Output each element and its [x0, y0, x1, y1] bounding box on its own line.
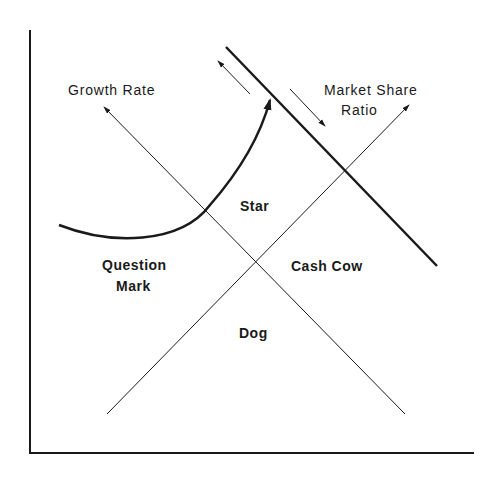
growth-rate-label: Growth Rate	[68, 82, 155, 98]
cash-cow-label: Cash Cow	[291, 258, 363, 274]
dog-label: Dog	[239, 325, 268, 341]
question-mark-label-line2: Mark	[116, 278, 151, 294]
boundary-line	[226, 47, 437, 266]
bcg-diagram: Growth Rate Market Share Ratio Star Ques…	[0, 0, 485, 478]
question-mark-label-line1: Question	[102, 257, 167, 273]
market-share-label-line1: Market Share	[324, 82, 418, 98]
market-share-label-line2: Ratio	[341, 102, 378, 118]
star-label: Star	[240, 198, 269, 214]
